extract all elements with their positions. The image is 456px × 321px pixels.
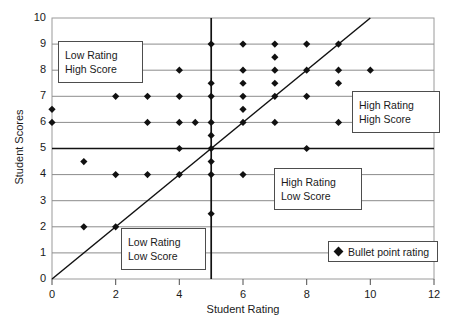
y-tick-label-5: 5 [24,141,46,153]
y-tick-label-2: 2 [24,220,46,232]
x-tick-label-4: 4 [169,288,189,300]
x-tick-label-0: 0 [42,288,62,300]
scatter-chart: 10 9 8 7 6 5 4 3 2 1 0 0 2 4 6 8 10 12 S… [0,0,456,321]
y-tick-label-7: 7 [24,89,46,101]
y-tick-label-0: 0 [24,272,46,284]
x-axis-ticks [52,279,434,285]
annotation-high-rating-high-score: High Rating High Score [352,91,440,133]
x-axis-title: Student Rating [52,303,434,315]
annotation-line-1: High Rating [359,98,433,113]
annotation-line-1: Low Rating [65,48,136,63]
y-tick-label-4: 4 [24,167,46,179]
x-tick-label-6: 6 [233,288,253,300]
annotation-high-rating-low-score: High Rating Low Score [274,168,362,210]
x-tick-label-10: 10 [360,288,380,300]
annotation-line-2: Low Score [128,249,199,264]
x-tick-label-2: 2 [106,288,126,300]
y-tick-label-6: 6 [24,115,46,127]
y-tick-label-8: 8 [24,63,46,75]
x-tick-label-12: 12 [424,288,444,300]
annotation-line-1: High Rating [281,175,355,190]
annotation-line-2: Low Score [281,189,355,204]
y-tick-label-1: 1 [24,246,46,258]
annotation-line-1: Low Rating [128,235,199,250]
y-tick-label-9: 9 [24,37,46,49]
annotation-low-rating-low-score: Low Rating Low Score [121,228,206,270]
chart-legend[interactable]: Bullet point rating [328,241,438,262]
annotation-line-2: High Score [65,62,136,77]
y-axis-title: Student Scores [13,87,25,207]
annotation-line-2: High Score [359,112,433,127]
y-tick-label-3: 3 [24,194,46,206]
legend-label: Bullet point rating [348,246,429,258]
diamond-marker-icon [334,247,344,257]
annotation-low-rating-high-score: Low Rating High Score [58,41,143,83]
y-tick-label-10: 10 [24,11,46,23]
x-tick-label-8: 8 [297,288,317,300]
